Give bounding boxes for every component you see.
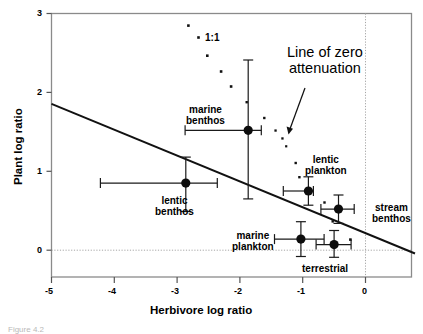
series-label-lentic-benthos-line1: lentic: [155, 196, 194, 207]
series-label-marine-plankton: marine plankton: [232, 231, 274, 252]
figure-caption: Figure 4.2: [8, 325, 44, 334]
series-label-lentic-plankton: lentic plankton: [305, 155, 347, 176]
series-label-lentic-plankton-line1: lentic: [305, 155, 347, 166]
zero-attenuation-annotation: Line of zero attenuation: [287, 44, 363, 76]
y-tick-label-1: 1: [37, 166, 42, 176]
y-axis-title: Plant log ratio: [12, 108, 24, 185]
series-label-lentic-benthos-line2: benthos: [155, 207, 194, 218]
x-axis-ticks: [52, 277, 366, 283]
datapoint-marine-benthos[interactable]: [185, 60, 261, 199]
x-tick-label-neg3: -3: [171, 286, 179, 296]
series-label-marine-benthos: marine benthos: [186, 105, 225, 126]
datapoint-stream-benthos[interactable]: [321, 195, 354, 223]
series-label-lentic-benthos: lentic benthos: [155, 196, 194, 217]
x-tick-label-neg1: -1: [297, 286, 305, 296]
zero-attenuation-annotation-line1: Line of zero: [287, 44, 363, 60]
x-tick-label-neg4: -4: [108, 286, 116, 296]
series-label-marine-benthos-line2: benthos: [186, 116, 225, 127]
x-axis-title: Herbivore log ratio: [150, 304, 252, 316]
y-tick-label-2: 2: [37, 87, 42, 97]
y-axis-ticks: [47, 14, 52, 251]
x-tick-label-neg5: -5: [45, 286, 53, 296]
series-label-stream-benthos-line2: benthos: [372, 214, 411, 225]
series-label-lentic-plankton-line2: plankton: [305, 166, 347, 177]
series-label-stream-benthos: stream benthos: [372, 203, 411, 224]
y-tick-label-3: 3: [37, 8, 42, 18]
series-label-marine-benthos-line1: marine: [186, 105, 225, 116]
annotation-arrow-icon: [287, 88, 305, 135]
one-to-one-label: 1:1: [205, 32, 219, 43]
datapoint-marine-plankton[interactable]: [275, 222, 325, 257]
x-tick-label-neg2: -2: [234, 286, 242, 296]
series-label-marine-plankton-line2: plankton: [232, 242, 274, 253]
series-label-marine-plankton-line1: marine: [232, 231, 274, 242]
x-tick-label-0: 0: [362, 286, 367, 296]
series-label-stream-benthos-line1: stream: [372, 203, 411, 214]
y-tick-label-0: 0: [37, 245, 42, 255]
series-label-terrestrial: terrestrial: [302, 264, 348, 275]
datapoint-terrestrial[interactable]: [316, 231, 351, 258]
zero-attenuation-annotation-line2: attenuation: [287, 60, 363, 76]
